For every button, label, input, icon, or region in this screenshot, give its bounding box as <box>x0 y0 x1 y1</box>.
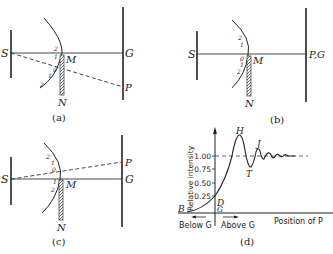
wavefront-arc <box>42 143 61 213</box>
zone-1-upper: 1 <box>51 159 55 166</box>
panel-d-intensity-plot: 1.00 0.75 0.50 0.25 Relative intensity B… <box>177 126 333 247</box>
mirror-strip <box>247 56 251 96</box>
arrow-right-icon <box>234 216 239 219</box>
zone-2-upper: 2 <box>237 34 242 41</box>
x-axis-label: Position of P <box>274 217 323 226</box>
zone-1-lower: 1 <box>48 72 52 79</box>
point-h: H <box>235 126 244 136</box>
above-g-label: Above G <box>221 221 255 230</box>
zone-1-lower: 1 <box>53 178 57 185</box>
caption-a: (a) <box>52 112 66 123</box>
label-g: G <box>125 173 134 186</box>
arrow-left-icon <box>191 216 196 219</box>
zone-2-lower: 2 <box>236 68 241 75</box>
ytick-1-00: 1.00 <box>194 152 211 161</box>
y-axis-label: Relative intensity <box>186 145 195 211</box>
zone-1-lower: 1 <box>240 61 244 68</box>
label-pg: P,G <box>308 49 325 60</box>
point-j: J <box>255 139 262 149</box>
label-m: M <box>65 54 77 65</box>
label-n: N <box>56 222 67 233</box>
zone-2-lower: 2 <box>50 186 55 193</box>
panel-b: S P,G M N 2 1 0 1 2 (b) <box>188 8 325 125</box>
zone-1-upper: 1 <box>54 53 58 60</box>
y-axis-arrow <box>213 127 217 134</box>
panel-c: S G P M N 2 1 0 1 2 (c) <box>1 135 134 247</box>
knife-edge-diffraction-figure: S G P M N 2 1 0 1 2 (a) S P,G M N 2 1 0 … <box>0 0 333 254</box>
label-p: P <box>124 82 132 93</box>
zone-2-upper: 2 <box>53 45 58 52</box>
caption-c: (c) <box>52 236 66 247</box>
ytick-0-75: 0.75 <box>194 165 211 174</box>
label-m: M <box>252 55 264 66</box>
ytick-0-50: 0.50 <box>194 179 211 188</box>
ray-to-p <box>11 162 122 179</box>
label-m: M <box>65 179 77 190</box>
label-s: S <box>1 47 9 60</box>
point-t: T <box>246 169 253 179</box>
ytick-0-25: 0.25 <box>194 192 211 201</box>
point-b: B <box>177 204 185 214</box>
label-g: G <box>125 47 134 60</box>
zone-2-lower: 2 <box>39 81 44 88</box>
panel-a: S G P M N 2 1 0 1 2 (a) <box>1 7 134 123</box>
caption-d: (d) <box>240 236 254 247</box>
label-n: N <box>57 97 68 108</box>
point-g: G <box>217 205 223 214</box>
mirror-strip <box>60 55 64 95</box>
zone-0: 0 <box>53 66 57 73</box>
zone-1-upper: 1 <box>240 41 244 48</box>
zone-2-upper: 2 <box>45 153 50 160</box>
label-s: S <box>188 48 196 61</box>
mirror-strip <box>59 180 63 220</box>
label-p: P <box>124 157 132 168</box>
caption-b: (b) <box>270 114 284 125</box>
zone-0: 0 <box>52 166 56 173</box>
label-s: S <box>1 173 9 186</box>
below-g-label: Below G <box>179 221 212 230</box>
label-n: N <box>244 98 255 109</box>
